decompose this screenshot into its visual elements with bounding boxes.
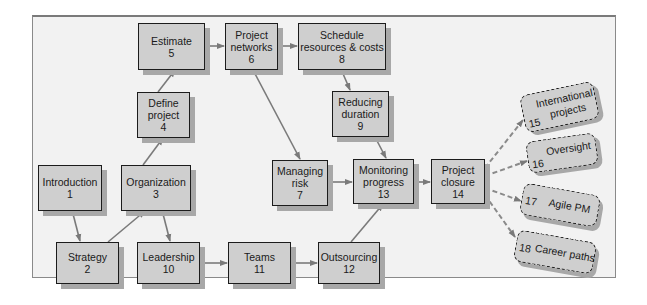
node-number: 15 — [528, 115, 542, 129]
edge-9-13 — [375, 137, 386, 158]
node-number: 1 — [67, 188, 73, 200]
node-number: 5 — [169, 47, 175, 59]
node-label: Strategy — [68, 251, 107, 263]
node-label-line-2: risk — [292, 177, 308, 189]
node-label-line-2: closure — [441, 176, 475, 188]
node-schedule-resources-costs: Schedule resources & costs 8 — [298, 23, 386, 70]
node-define-project: Define project 4 — [137, 92, 190, 138]
node-label: Career paths — [533, 241, 596, 264]
node-label-line-2: progress — [363, 176, 404, 188]
node-outsourcing: Outsourcing 12 — [318, 242, 380, 284]
node-label-line-1: Managing — [277, 165, 323, 177]
edge-14-15 — [485, 120, 523, 168]
node-number: 13 — [378, 188, 390, 200]
node-number: 11 — [254, 263, 265, 275]
edge-14-16 — [485, 161, 527, 176]
edge-14-18 — [485, 195, 515, 237]
node-strategy: Strategy 2 — [56, 242, 119, 284]
node-number: 9 — [358, 120, 364, 132]
node-number: 14 — [452, 188, 464, 200]
edge-2-3 — [108, 211, 145, 242]
node-number: 3 — [153, 188, 159, 200]
node-number: 16 — [531, 157, 544, 171]
node-number: 12 — [343, 263, 355, 275]
node-estimate: Estimate 5 — [138, 23, 205, 70]
node-label: Leadership — [143, 251, 195, 263]
node-reducing-duration: Reducing duration 9 — [332, 91, 389, 137]
node-number: 17 — [524, 194, 538, 208]
node-label-line-1: Define — [148, 97, 178, 109]
node-number: 4 — [161, 121, 167, 133]
node-project-closure: Project closure 14 — [431, 159, 485, 204]
edge-3-10 — [162, 210, 170, 241]
edge-12-13 — [351, 204, 383, 242]
node-number: 7 — [297, 189, 303, 201]
node-number: 10 — [163, 263, 175, 275]
node-label-line-1: Project — [235, 29, 268, 41]
node-number: 8 — [339, 53, 345, 65]
node-label-line-1: Project — [442, 164, 475, 176]
node-managing-risk: Managing risk 7 — [272, 160, 328, 206]
node-introduction: Introduction 1 — [38, 165, 102, 211]
node-label-line-2: duration — [342, 108, 380, 120]
edge-3-4 — [143, 138, 163, 165]
node-label-line-2: project — [148, 109, 180, 121]
node-organization: Organization 3 — [121, 165, 191, 211]
node-monitoring-progress: Monitoring progress 13 — [353, 159, 414, 204]
node-label-line-1: Monitoring — [359, 164, 408, 176]
edge-1-2 — [72, 210, 80, 241]
node-label: Oversight — [543, 139, 594, 158]
node-number: 6 — [249, 53, 255, 65]
node-label-line-2: resources & costs — [300, 41, 383, 53]
node-label: Teams — [244, 251, 275, 263]
node-project-networks: Project networks 6 — [225, 23, 278, 70]
node-label-line-1: Reducing — [338, 96, 382, 108]
node-label: Estimate — [151, 35, 192, 47]
node-teams: Teams 11 — [228, 242, 291, 284]
edge-8-9 — [341, 69, 350, 90]
node-label-line-2: networks — [230, 41, 272, 53]
node-label: Introduction — [43, 176, 98, 188]
node-number: 2 — [85, 263, 91, 275]
node-label: Organization — [126, 176, 186, 188]
node-label: Outsourcing — [321, 251, 378, 263]
node-leadership: Leadership 10 — [137, 242, 200, 284]
edge-6-7 — [253, 70, 300, 159]
node-label: Agile PM — [541, 195, 597, 216]
node-number: 18 — [518, 241, 532, 255]
edge-14-17 — [485, 188, 521, 201]
edge-4-5 — [158, 70, 175, 92]
node-label-line-1: Schedule — [320, 29, 364, 41]
